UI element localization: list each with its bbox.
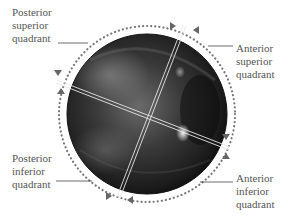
label-anterior-inferior-quadrant: Anterior inferior quadrant (236, 172, 274, 211)
label-line: superior (236, 55, 274, 68)
label-line: quadrant (12, 178, 52, 191)
label-line: quadrant (12, 32, 52, 45)
label-line: inferior (12, 165, 52, 178)
label-anterior-superior-quadrant: Anterior superior quadrant (236, 42, 274, 81)
label-line: inferior (236, 185, 274, 198)
label-line: Posterior (12, 152, 52, 165)
label-posterior-superior-quadrant: Posterior superior quadrant (12, 6, 52, 45)
label-line: quadrant (236, 68, 274, 81)
label-line: Anterior (236, 42, 274, 55)
label-posterior-inferior-quadrant: Posterior inferior quadrant (12, 152, 52, 191)
label-line: Anterior (236, 172, 274, 185)
label-line: quadrant (236, 198, 274, 211)
tympanic-membrane (67, 34, 227, 194)
label-line: superior (12, 19, 52, 32)
label-line: Posterior (12, 6, 52, 19)
